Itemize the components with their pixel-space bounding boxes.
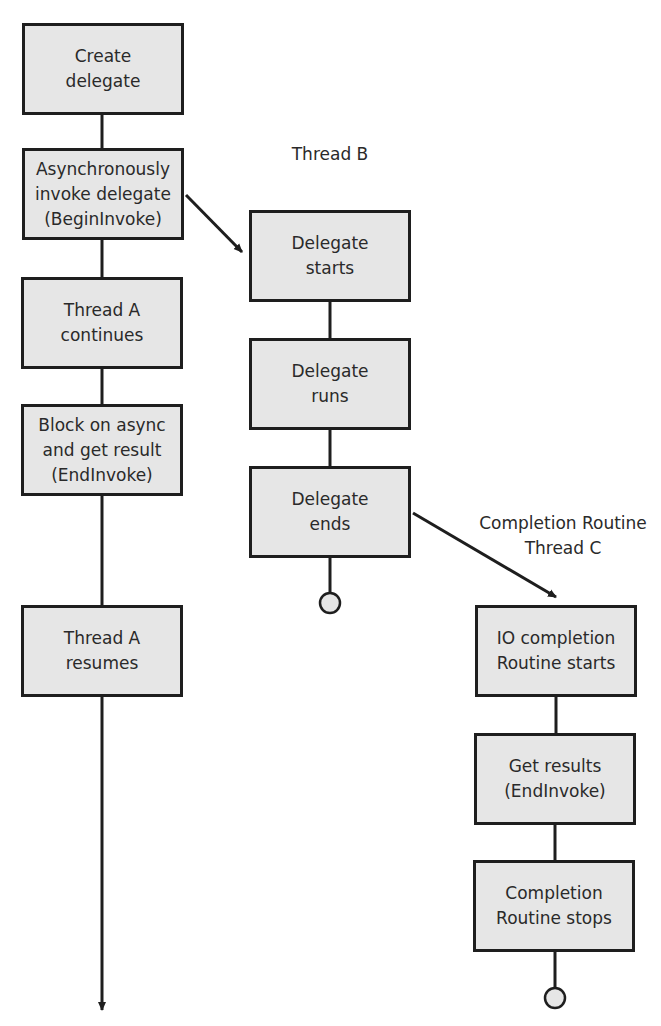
- step-io-completion-starts: IO completion Routine starts: [475, 605, 637, 697]
- step-block-end-invoke: Block on async and get result (EndInvoke…: [21, 404, 183, 496]
- step-get-results: Get results (EndInvoke): [474, 733, 636, 825]
- step-thread-a-resumes: Thread A resumes: [21, 605, 183, 697]
- step-delegate-ends: Delegate ends: [249, 466, 411, 558]
- step-completion-routine-stops: Completion Routine stops: [473, 860, 635, 952]
- step-delegate-runs: Delegate runs: [249, 338, 411, 430]
- thread-c-title: Completion Routine Thread C: [463, 511, 661, 561]
- terminator-c-icon: [545, 988, 565, 1008]
- step-thread-a-continues: Thread A continues: [21, 277, 183, 369]
- step-delegate-starts: Delegate starts: [249, 210, 411, 302]
- terminator-b-icon: [320, 593, 340, 613]
- thread-b-title: Thread B: [250, 142, 410, 167]
- arrow-begininvoke: [186, 195, 242, 252]
- step-create-delegate: Create delegate: [22, 23, 184, 115]
- step-begin-invoke: Asynchronously invoke delegate (BeginInv…: [22, 148, 184, 240]
